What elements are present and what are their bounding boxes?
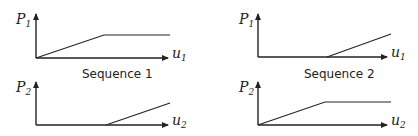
curve (106, 103, 170, 125)
y-label: P2 (15, 79, 31, 97)
panel-seq2-p1: P1 u1 (238, 11, 406, 62)
caption-seq1: Sequence 1 (82, 67, 153, 81)
x-label: u1 (391, 44, 406, 62)
x-label: u2 (172, 112, 187, 130)
y-label: P1 (15, 11, 31, 29)
curve (36, 35, 170, 58)
panel-seq1-p1: P1 u1 (15, 11, 187, 63)
diagram: P1 u1 Sequence 1 P2 u2 P1 u1 Sequence 2 … (0, 0, 418, 136)
curve (327, 34, 391, 57)
caption-seq2: Sequence 2 (304, 67, 375, 81)
x-label: u2 (391, 112, 406, 130)
x-label: u1 (172, 45, 187, 63)
y-label: P2 (238, 79, 254, 97)
curve (258, 102, 391, 125)
panel-seq1-p2: P2 u2 (15, 79, 187, 130)
panel-seq2-p2: P2 u2 (238, 79, 406, 130)
y-label: P1 (238, 11, 254, 29)
